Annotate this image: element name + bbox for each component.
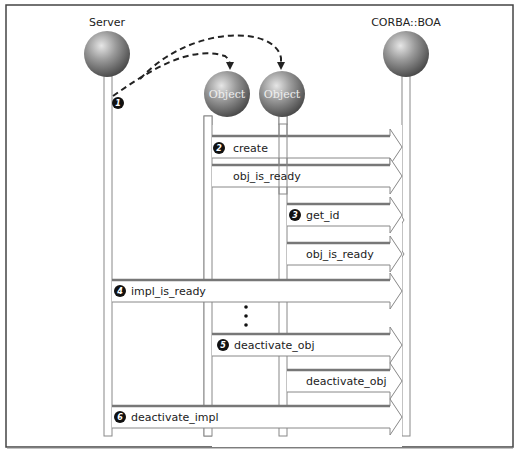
step-badge-2: 2 xyxy=(213,142,225,154)
svg-text:1: 1 xyxy=(115,99,121,108)
step-badge-6: 6 xyxy=(114,411,126,423)
server-label: Server xyxy=(89,16,126,29)
svg-text:3: 3 xyxy=(292,211,298,220)
object1-label: Object xyxy=(209,88,246,101)
message-label-impl-is-ready: impl_is_ready xyxy=(131,285,206,298)
message-label-deactivate-impl: deactivate_impl xyxy=(131,411,219,424)
step-badge-1: 1 xyxy=(112,97,124,109)
diagram-overlay: Server CORBA::BOA Object Object 1 2 3 4 … xyxy=(0,0,519,451)
svg-text:5: 5 xyxy=(220,341,226,350)
message-label-deactivate-obj-2: deactivate_obj xyxy=(306,375,387,388)
svg-text:4: 4 xyxy=(116,287,123,296)
boa-label: CORBA::BOA xyxy=(371,16,441,29)
message-label-obj-is-ready-1: obj_is_ready xyxy=(233,170,301,183)
message-label-create: create xyxy=(233,142,268,155)
svg-text:2: 2 xyxy=(216,144,222,153)
boa-sphere-icon xyxy=(383,31,429,77)
message-label-get-id: get_id xyxy=(306,209,340,222)
step-badge-5: 5 xyxy=(217,339,229,351)
server-sphere-icon xyxy=(84,31,130,77)
step-badge-4: 4 xyxy=(114,285,126,297)
arrowhead-icon xyxy=(226,62,234,70)
step-badge-3: 3 xyxy=(289,209,301,221)
message-label-deactivate-obj-1: deactivate_obj xyxy=(234,339,315,352)
svg-text:6: 6 xyxy=(117,413,123,422)
create-arrow-object2 xyxy=(140,35,281,79)
message-label-obj-is-ready-2: obj_is_ready xyxy=(306,248,374,261)
arrowhead-icon xyxy=(277,62,285,70)
object2-label: Object xyxy=(264,88,301,101)
